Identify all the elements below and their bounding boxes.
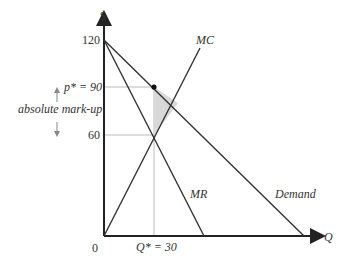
y-axis-label: $ — [100, 9, 106, 23]
deadweight-loss-area — [154, 87, 178, 135]
markup-label: absolute mark-up — [18, 102, 102, 116]
demand-curve — [104, 40, 304, 236]
tick-120: 120 — [82, 33, 100, 47]
monopoly-diagram: $ Q 120 60 0 p* = 90 Q* = 30 absolute ma… — [0, 0, 353, 268]
mc-label: MC — [195, 33, 215, 47]
origin-label: 0 — [92, 241, 98, 255]
mc-curve — [104, 48, 200, 236]
quantity-label: Q* = 30 — [136, 240, 177, 254]
price-label: p* = 90 — [63, 80, 102, 94]
tick-60: 60 — [88, 128, 100, 142]
optimum-point — [151, 84, 156, 89]
mr-label: MR — [189, 187, 208, 201]
x-axis-label: Q — [324, 230, 333, 244]
demand-label: Demand — [274, 187, 317, 201]
